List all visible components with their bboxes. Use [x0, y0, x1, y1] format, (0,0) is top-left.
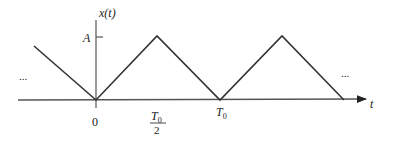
ellipsis-right: ... — [341, 67, 350, 79]
tick-period: T0 — [216, 105, 227, 121]
amplitude-label: A — [82, 31, 91, 45]
ellipsis-left: ... — [19, 70, 28, 82]
tick-half-period: T0 2 — [150, 109, 166, 136]
tick-zero: 0 — [92, 115, 98, 129]
y-axis-label: x(t) — [98, 6, 116, 20]
t-axis-label: t — [370, 97, 374, 111]
triangle-wave — [34, 36, 344, 100]
triangle-wave-diagram: x(t) A ... ... t 0 T0 2 T0 — [0, 0, 394, 142]
t-axis — [18, 99, 366, 100]
svg-text:2: 2 — [154, 124, 160, 136]
